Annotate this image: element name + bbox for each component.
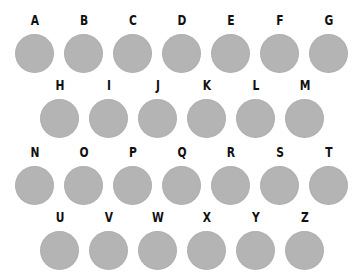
circle-target[interactable] xyxy=(64,34,103,73)
letter-button-e[interactable]: E xyxy=(211,12,251,74)
letter-label: L xyxy=(239,77,273,93)
circle-target[interactable] xyxy=(15,34,54,73)
circle-target[interactable] xyxy=(260,34,299,73)
letter-label: A xyxy=(18,12,52,28)
letter-button-n[interactable]: N xyxy=(15,144,55,206)
circle-target[interactable] xyxy=(260,166,299,205)
letter-button-v[interactable]: V xyxy=(89,209,129,271)
circle-target[interactable] xyxy=(236,231,275,270)
letter-button-o[interactable]: O xyxy=(64,144,104,206)
letter-button-w[interactable]: W xyxy=(138,209,178,271)
letter-label: R xyxy=(214,144,248,160)
letter-label: C xyxy=(116,12,150,28)
letter-button-s[interactable]: S xyxy=(260,144,300,206)
letter-button-k[interactable]: K xyxy=(187,77,227,139)
letter-button-p[interactable]: P xyxy=(113,144,153,206)
letter-button-i[interactable]: I xyxy=(89,77,129,139)
letter-button-c[interactable]: C xyxy=(113,12,153,74)
letter-button-q[interactable]: Q xyxy=(162,144,202,206)
letter-button-f[interactable]: F xyxy=(260,12,300,74)
letter-label: D xyxy=(165,12,199,28)
circle-target[interactable] xyxy=(40,231,79,270)
letter-button-y[interactable]: Y xyxy=(236,209,276,271)
circle-target[interactable] xyxy=(113,34,152,73)
letter-label: E xyxy=(214,12,248,28)
letter-button-l[interactable]: L xyxy=(236,77,276,139)
circle-target[interactable] xyxy=(138,231,177,270)
circle-target[interactable] xyxy=(211,166,250,205)
circle-target[interactable] xyxy=(309,34,348,73)
letter-label: S xyxy=(263,144,297,160)
letter-button-g[interactable]: G xyxy=(309,12,349,74)
letter-button-m[interactable]: M xyxy=(285,77,325,139)
letter-label: J xyxy=(141,77,175,93)
circle-target[interactable] xyxy=(138,99,177,138)
letter-label: H xyxy=(43,77,77,93)
circle-target[interactable] xyxy=(89,99,128,138)
letter-label: V xyxy=(92,209,126,225)
letter-label: F xyxy=(263,12,297,28)
letter-button-z[interactable]: Z xyxy=(285,209,325,271)
circle-target[interactable] xyxy=(89,231,128,270)
letter-label: W xyxy=(141,209,175,225)
letter-label: Y xyxy=(239,209,273,225)
letter-label: M xyxy=(288,77,322,93)
letter-button-j[interactable]: J xyxy=(138,77,178,139)
circle-target[interactable] xyxy=(162,166,201,205)
letter-label: N xyxy=(18,144,52,160)
letter-label: B xyxy=(67,12,101,28)
letter-button-a[interactable]: A xyxy=(15,12,55,74)
letter-label: P xyxy=(116,144,150,160)
letter-label: X xyxy=(190,209,224,225)
circle-target[interactable] xyxy=(236,99,275,138)
letter-button-h[interactable]: H xyxy=(40,77,80,139)
letter-label: Z xyxy=(288,209,322,225)
letter-label: T xyxy=(312,144,346,160)
letter-label: O xyxy=(67,144,101,160)
circle-target[interactable] xyxy=(113,166,152,205)
letter-label: Q xyxy=(165,144,199,160)
circle-target[interactable] xyxy=(64,166,103,205)
circle-target[interactable] xyxy=(187,231,226,270)
letter-button-d[interactable]: D xyxy=(162,12,202,74)
circle-target[interactable] xyxy=(187,99,226,138)
letter-label: U xyxy=(43,209,77,225)
letter-label: I xyxy=(92,77,126,93)
circle-target[interactable] xyxy=(309,166,348,205)
circle-target[interactable] xyxy=(15,166,54,205)
letter-button-x[interactable]: X xyxy=(187,209,227,271)
letter-label: G xyxy=(312,12,346,28)
circle-target[interactable] xyxy=(40,99,79,138)
letter-label: K xyxy=(190,77,224,93)
letter-button-b[interactable]: B xyxy=(64,12,104,74)
letter-button-r[interactable]: R xyxy=(211,144,251,206)
letter-button-u[interactable]: U xyxy=(40,209,80,271)
circle-target[interactable] xyxy=(211,34,250,73)
circle-target[interactable] xyxy=(162,34,201,73)
letter-button-t[interactable]: T xyxy=(309,144,349,206)
circle-target[interactable] xyxy=(285,99,324,138)
circle-target[interactable] xyxy=(285,231,324,270)
